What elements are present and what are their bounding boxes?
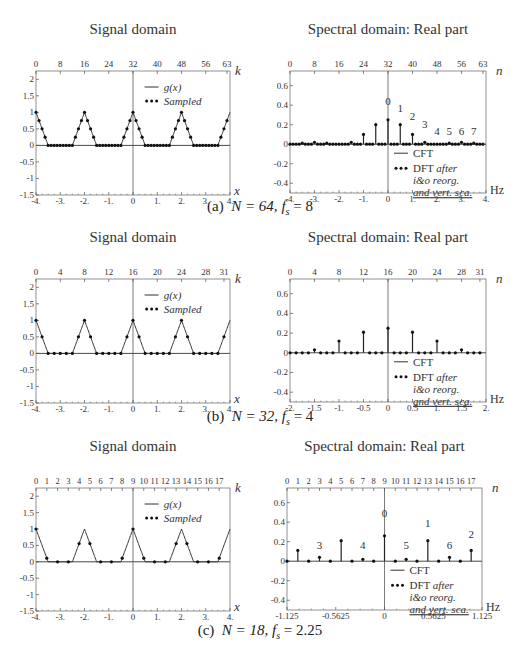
svg-text:4: 4 (312, 267, 317, 277)
svg-text:1: 1 (30, 315, 35, 325)
svg-text:40: 40 (408, 59, 418, 69)
svg-text:10: 10 (391, 476, 400, 486)
svg-text:0: 0 (34, 267, 39, 277)
x-axis-label: x (233, 391, 240, 406)
legend-cft: CFT (413, 356, 433, 368)
svg-text:1.: 1. (154, 612, 161, 622)
svg-text:-0.4: -0.4 (274, 387, 289, 397)
chart-title: Signal domain (89, 21, 177, 37)
svg-text:13: 13 (172, 476, 181, 486)
svg-text:1: 1 (45, 476, 49, 486)
svg-text:20: 20 (153, 267, 163, 277)
svg-text:16: 16 (335, 59, 345, 69)
svg-text:17: 17 (215, 476, 224, 486)
svg-text:8: 8 (312, 59, 317, 69)
svg-text:24: 24 (433, 267, 443, 277)
svg-text:-3.: -3. (55, 612, 65, 622)
svg-text:15: 15 (193, 476, 202, 486)
svg-text:48: 48 (177, 59, 187, 69)
svg-text:0: 0 (30, 557, 35, 567)
svg-text:63: 63 (478, 59, 488, 69)
svg-text:12: 12 (413, 476, 422, 486)
legend-dft: DFT after (413, 371, 458, 383)
harmonic-label: 5 (403, 539, 409, 551)
x-axis-label: x (233, 599, 240, 614)
caption-b: (b) N = 32, fs = 4 (0, 408, 520, 427)
svg-text:0.4: 0.4 (277, 308, 289, 318)
svg-text:8: 8 (58, 59, 63, 69)
svg-text:i&o reorg.: i&o reorg. (413, 383, 459, 395)
svg-text:-2.: -2. (80, 612, 90, 622)
svg-text:9: 9 (131, 476, 135, 486)
svg-text:13: 13 (424, 476, 433, 486)
caption-c: (c) N = 18, fs = 2.25 (0, 622, 520, 641)
svg-text:32: 32 (384, 59, 393, 69)
caption-a: (a) N = 64, fs = 8 (0, 198, 520, 217)
svg-text:28: 28 (457, 267, 467, 277)
a-signal-chart: Signal domain-4.-3.-2.-1.01.2.3.4.xk21.5… (20, 21, 241, 206)
svg-text:-1.5: -1.5 (20, 606, 35, 616)
svg-text:-0.5: -0.5 (20, 573, 35, 583)
svg-text:-0.5625: -0.5625 (322, 611, 350, 621)
harmonic-label: 2 (410, 110, 416, 122)
svg-text:1.5: 1.5 (23, 91, 35, 101)
svg-text:12: 12 (161, 476, 170, 486)
x-axis-label: Hz (486, 600, 500, 614)
svg-text:2.: 2. (178, 612, 185, 622)
svg-text:0: 0 (288, 59, 293, 69)
svg-text:16: 16 (384, 267, 394, 277)
harmonic-label: 2 (468, 528, 474, 540)
svg-text:-1: -1 (27, 590, 35, 600)
svg-text:1: 1 (30, 107, 35, 117)
svg-text:5: 5 (339, 476, 343, 486)
svg-text:2: 2 (55, 476, 59, 486)
svg-text:and vert. sca.: and vert. sca. (413, 395, 472, 407)
svg-text:-1: -1 (27, 173, 35, 183)
harmonic-label: 0 (382, 507, 388, 519)
svg-text:5: 5 (88, 476, 92, 486)
harmonic-label: 6 (447, 539, 453, 551)
svg-text:0.6: 0.6 (274, 498, 286, 508)
svg-text:24: 24 (177, 267, 187, 277)
svg-text:0.2: 0.2 (277, 120, 288, 130)
svg-text:0: 0 (382, 611, 387, 621)
top-axis-label: n (496, 63, 503, 78)
harmonic-label: 3 (422, 118, 428, 130)
legend-sampled: Sampled (164, 512, 202, 524)
svg-text:0: 0 (281, 556, 286, 566)
svg-text:i&o reorg.: i&o reorg. (413, 174, 459, 186)
chart-title: Spectral domain: Real part (308, 21, 469, 37)
svg-text:24: 24 (104, 59, 114, 69)
harmonic-label: 3 (317, 539, 323, 551)
svg-text:0: 0 (284, 139, 289, 149)
svg-text:-1.: -1. (104, 612, 114, 622)
svg-text:1: 1 (296, 476, 300, 486)
svg-text:11: 11 (150, 476, 158, 486)
svg-text:and vert. sca.: and vert. sca. (413, 186, 472, 198)
svg-text:7: 7 (109, 476, 113, 486)
svg-text:8: 8 (337, 267, 342, 277)
svg-text:31: 31 (475, 267, 484, 277)
svg-text:3: 3 (317, 476, 321, 486)
svg-text:1: 1 (30, 524, 35, 534)
svg-text:14: 14 (434, 476, 443, 486)
legend-gx: g(x) (164, 498, 182, 511)
figure-plots: Signal domain-4.-3.-2.-1.01.2.3.4.xk21.5… (0, 0, 520, 654)
svg-text:2: 2 (30, 74, 35, 84)
legend-dft: DFT after (413, 162, 458, 174)
legend-cft: CFT (413, 147, 433, 159)
svg-text:24: 24 (359, 59, 369, 69)
svg-text:-0.4: -0.4 (271, 595, 286, 605)
chart-title: Spectral domain: Real part (304, 438, 465, 454)
svg-text:0.4: 0.4 (277, 100, 289, 110)
svg-text:0: 0 (30, 140, 35, 150)
chart-title: Signal domain (89, 229, 177, 245)
top-axis-label: k (235, 63, 241, 78)
svg-text:0: 0 (34, 59, 39, 69)
harmonic-label: 4 (360, 539, 366, 551)
svg-text:-0.2: -0.2 (274, 367, 288, 377)
svg-text:7: 7 (361, 476, 365, 486)
svg-text:8: 8 (372, 476, 376, 486)
svg-text:0.5: 0.5 (23, 124, 35, 134)
svg-text:32: 32 (129, 59, 138, 69)
